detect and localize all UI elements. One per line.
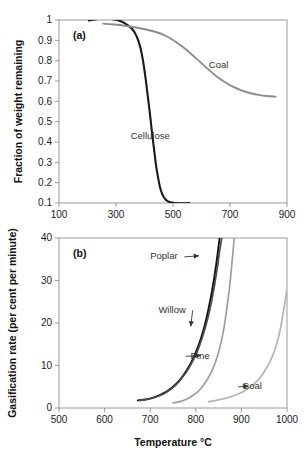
x-tick-label: 700 xyxy=(142,414,159,425)
x-tick-label: 800 xyxy=(187,414,204,425)
y-axis-title: Fraction of weight remaining xyxy=(12,40,24,184)
x-tick-label: 100 xyxy=(51,209,68,220)
x-tick-label: 500 xyxy=(165,209,182,220)
x-tick-label: 500 xyxy=(51,414,68,425)
x-axis-title: Temperature °C xyxy=(134,436,212,448)
y-tick-label: 1 xyxy=(46,14,52,25)
x-tick-label: 900 xyxy=(233,414,250,425)
y-tick-label: 0.4 xyxy=(38,136,52,147)
y-tick-label: 0.6 xyxy=(38,96,52,107)
y-tick-label: 0 xyxy=(46,402,52,413)
x-tick-label: 600 xyxy=(96,414,113,425)
figure-container: 0.10.20.30.40.50.60.70.80.91100300500700… xyxy=(0,0,306,462)
curve-label-poplar: Poplar xyxy=(150,250,177,261)
y-tick-label: 0.5 xyxy=(38,116,52,127)
y-tick-label: 0.1 xyxy=(38,197,52,208)
panel-tag: (a) xyxy=(73,29,86,41)
two-panel-chart: 0.10.20.30.40.50.60.70.80.91100300500700… xyxy=(0,0,306,462)
y-tick-label: 10 xyxy=(41,360,53,371)
y-tick-label: 0.7 xyxy=(38,75,52,86)
y-tick-label: 30 xyxy=(41,275,53,286)
curve-label-cellulose: Cellulose xyxy=(131,130,170,141)
y-tick-label: 0.8 xyxy=(38,55,52,66)
y-tick-label: 0.3 xyxy=(38,157,52,168)
y-tick-label: 0.2 xyxy=(38,177,52,188)
y-tick-label: 40 xyxy=(41,232,53,243)
curve-label-willow: Willow xyxy=(158,304,186,315)
x-tick-label: 700 xyxy=(222,209,239,220)
curve-label-coal: Coal xyxy=(209,59,229,70)
x-tick-label: 1000 xyxy=(276,414,299,425)
y-tick-label: 0.9 xyxy=(38,35,52,46)
figure-background xyxy=(0,0,306,462)
y-axis-title: Gasification rate (per cent per minute) xyxy=(6,228,18,418)
panel-tag: (b) xyxy=(73,247,86,259)
x-tick-label: 900 xyxy=(279,209,296,220)
y-tick-label: 20 xyxy=(41,317,53,328)
x-tick-label: 300 xyxy=(108,209,125,220)
